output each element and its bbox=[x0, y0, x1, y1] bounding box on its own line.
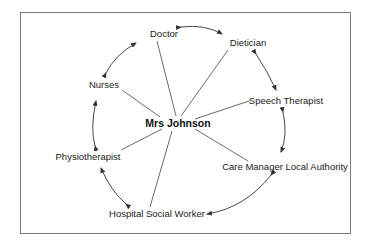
node-nurses: Nurses bbox=[89, 80, 119, 90]
node-hospital-social-worker: Hospital Social Worker bbox=[109, 209, 205, 219]
center-node-mrs-johnson: Mrs Johnson bbox=[145, 118, 210, 129]
node-physiotherapist: Physiotherapist bbox=[56, 152, 121, 162]
node-doctor: Doctor bbox=[150, 29, 178, 39]
node-speech-therapist: Speech Therapist bbox=[249, 96, 323, 106]
node-care-manager: Care Manager Local Authority bbox=[222, 162, 348, 172]
node-dietician: Dietician bbox=[230, 38, 266, 48]
